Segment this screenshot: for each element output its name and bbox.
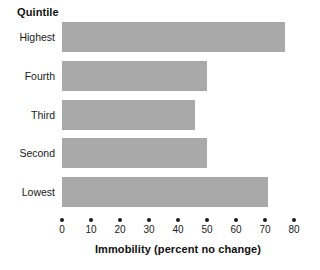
tick-dot-icon (118, 218, 122, 222)
bar-row: Highest (62, 22, 294, 52)
category-label-second: Second (19, 147, 55, 159)
bar-highest (62, 22, 285, 52)
x-axis-title: Immobility (percent no change) (62, 243, 294, 255)
category-label-fourth: Fourth (25, 70, 55, 82)
tick-dot-icon (147, 218, 151, 222)
x-tick-label: 40 (165, 224, 191, 235)
x-tick-label: 60 (223, 224, 249, 235)
x-tick-label: 20 (107, 224, 133, 235)
x-tick-0: 0 (49, 218, 75, 235)
tick-dot-icon (234, 218, 238, 222)
x-tick-40: 40 (165, 218, 191, 235)
x-tick-70: 70 (252, 218, 278, 235)
x-tick-label: 10 (78, 224, 104, 235)
y-axis-title: Quintile (17, 6, 59, 18)
x-tick-30: 30 (136, 218, 162, 235)
x-tick-10: 10 (78, 218, 104, 235)
bar-row: Second (62, 138, 294, 168)
bar-row: Third (62, 100, 294, 130)
bar-third (62, 100, 195, 130)
plot-area: HighestFourthThirdSecondLowest (62, 22, 294, 216)
x-tick-label: 80 (281, 224, 307, 235)
tick-dot-icon (205, 218, 209, 222)
bar-chart: Quintile HighestFourthThirdSecondLowest … (0, 0, 320, 270)
x-axis: 01020304050607080 (62, 218, 294, 242)
tick-dot-icon (176, 218, 180, 222)
x-tick-20: 20 (107, 218, 133, 235)
tick-dot-icon (89, 218, 93, 222)
bar-lowest (62, 177, 268, 207)
category-label-third: Third (31, 109, 55, 121)
bar-fourth (62, 61, 207, 91)
tick-dot-icon (60, 218, 64, 222)
bar-row: Fourth (62, 61, 294, 91)
x-tick-label: 30 (136, 224, 162, 235)
x-tick-50: 50 (194, 218, 220, 235)
bar-second (62, 138, 207, 168)
category-label-lowest: Lowest (22, 186, 55, 198)
bar-row: Lowest (62, 177, 294, 207)
tick-dot-icon (292, 218, 296, 222)
tick-dot-icon (263, 218, 267, 222)
x-tick-label: 70 (252, 224, 278, 235)
x-tick-80: 80 (281, 218, 307, 235)
x-tick-label: 50 (194, 224, 220, 235)
x-tick-60: 60 (223, 218, 249, 235)
category-label-highest: Highest (19, 31, 55, 43)
x-tick-label: 0 (49, 224, 75, 235)
